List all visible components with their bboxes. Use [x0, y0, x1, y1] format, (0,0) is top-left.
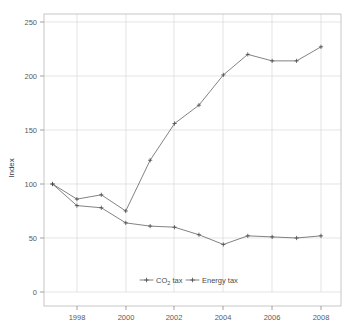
y-tick-label: 50: [29, 234, 37, 243]
data-point-marker: [319, 234, 323, 238]
y-tick-labels: 250 200 150 100 50 0: [24, 18, 37, 297]
x-tick-label: 2000: [118, 313, 135, 322]
y-tick-marks: [40, 22, 44, 292]
series-co2-tax: [50, 182, 323, 247]
x-tick-label: 1998: [69, 313, 86, 322]
y-tick-label: 250: [24, 18, 37, 27]
legend-marker-co2: [140, 278, 153, 283]
legend-label-energy: Energy tax: [202, 276, 238, 285]
data-point-marker: [294, 236, 298, 240]
data-point-marker: [270, 235, 274, 239]
data-point-marker: [75, 197, 79, 201]
legend-marker-energy: [186, 278, 199, 283]
data-point-marker: [221, 242, 225, 246]
data-point-marker: [246, 234, 250, 238]
series-energy-tax: [50, 45, 323, 213]
data-point-marker: [148, 224, 152, 228]
legend-label-co2: CO2 tax: [156, 276, 183, 286]
series-line: [53, 47, 322, 211]
series-line: [53, 184, 322, 244]
data-point-marker: [270, 59, 274, 63]
x-tick-marks: [77, 306, 321, 310]
y-tick-label: 150: [24, 126, 37, 135]
x-tick-label: 2002: [166, 313, 183, 322]
chart-figure: 250 200 150 100 50 0 1998 2000 2002 2004…: [0, 0, 345, 332]
x-tick-label: 2008: [313, 313, 330, 322]
x-tick-label: 2004: [215, 313, 232, 322]
line-chart: 250 200 150 100 50 0 1998 2000 2002 2004…: [0, 0, 345, 332]
data-point-marker: [294, 59, 298, 63]
series-layer: [50, 45, 323, 247]
y-tick-label: 0: [33, 288, 37, 297]
data-point-marker: [172, 225, 176, 229]
data-point-marker: [197, 233, 201, 237]
plot-border: [44, 14, 341, 306]
x-gridlines: [77, 14, 321, 292]
x-tick-labels: 1998 2000 2002 2004 2006 2008: [69, 313, 330, 322]
data-point-marker: [124, 221, 128, 225]
data-point-marker: [99, 206, 103, 210]
y-tick-label: 100: [24, 180, 37, 189]
y-axis-title: Index: [7, 158, 16, 178]
y-tick-label: 200: [24, 72, 37, 81]
x-tick-label: 2006: [264, 313, 281, 322]
data-point-marker: [319, 45, 323, 49]
chart-legend[interactable]: CO2 tax Energy tax: [140, 276, 238, 286]
